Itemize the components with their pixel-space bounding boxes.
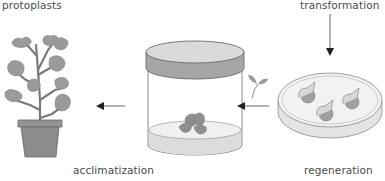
potted-plant-icon xyxy=(5,35,71,157)
petri-dish-icon xyxy=(278,73,382,138)
culture-jar-icon xyxy=(146,41,244,155)
seedling-icon xyxy=(248,75,268,98)
